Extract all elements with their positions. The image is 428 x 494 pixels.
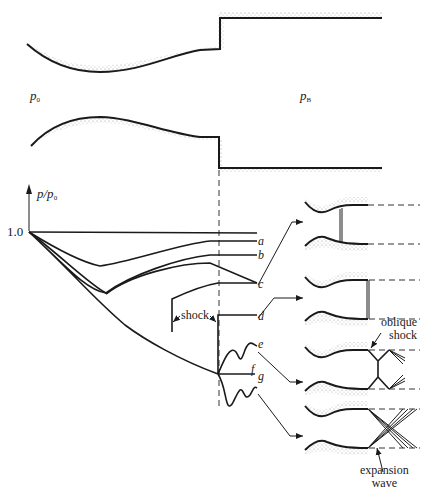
lower-nozzle-wall: [31, 117, 382, 168]
shock-arrow-left: [173, 316, 180, 322]
leader-g: [258, 394, 303, 436]
leader-c: [258, 222, 303, 285]
curve-label-d: d: [258, 309, 264, 324]
main-nozzle: [26, 12, 382, 172]
inset-g: [305, 401, 420, 472]
leader-e: [258, 352, 303, 382]
curve-g: [218, 374, 257, 406]
curve-c: [106, 263, 257, 294]
curve-label-e: e: [258, 337, 263, 352]
leader-d: [258, 298, 303, 318]
inset-c: [305, 197, 420, 251]
oblique-shock-label: oblique shock: [381, 316, 417, 342]
pressure-plot: [26, 170, 303, 436]
curve-label-a: a: [258, 234, 264, 249]
shock-arrow-right: [210, 316, 216, 322]
curve-label-g: g: [258, 369, 264, 384]
expansion-wave-label: expansion wave: [360, 464, 409, 490]
curve-label-f: f: [251, 362, 254, 377]
curve-supersonic-expansion: [29, 232, 218, 374]
y-axis-label: p/p0: [37, 186, 57, 202]
nozzle-flow-diagram: [0, 0, 428, 494]
curve-1.0-reference: [29, 232, 257, 233]
upper-nozzle-wall: [27, 18, 382, 72]
inlet-pressure-label: p0: [30, 88, 40, 104]
y-tick-1-0: 1.0: [7, 224, 23, 240]
y-axis-arrow-icon: [26, 184, 32, 194]
inset-e: [305, 333, 420, 396]
curve-label-c: c: [258, 277, 263, 292]
curve-a: [29, 232, 257, 266]
shock-label: shock: [181, 308, 209, 323]
curve-label-b: b: [258, 248, 264, 263]
back-pressure-label: pB: [300, 88, 311, 104]
